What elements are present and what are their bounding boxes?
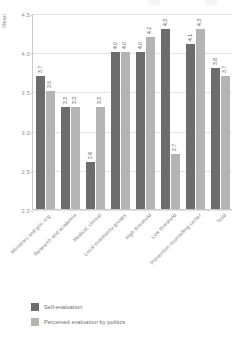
bar-group: 2.63.3 [83,14,108,209]
bar: 3.7 [36,76,45,209]
bar-group: 4.14.3 [183,14,208,209]
legend-swatch-icon-self-evaluation [31,303,39,311]
x-axis-labels: Ministries and gov. org.Research and aca… [32,212,232,294]
bar: 3.5 [46,91,55,209]
bar: 4.2 [146,37,155,209]
bar-value-label: 3.5 [46,81,52,88]
bar: 4.0 [121,52,130,209]
bar: 3.3 [96,107,105,209]
legend-label: Self-evaluation [44,304,83,310]
chart-legend: Self-evaluation Perceived evaluation by … [31,303,125,333]
bar-value-label: 3.8 [212,58,218,65]
bar-value-label: 4.0 [112,42,118,49]
bar-group: 3.33.3 [58,14,83,209]
y-axis-tick-label: 4.5 [22,12,30,18]
bar: 4.0 [136,52,145,209]
y-axis-title: Mean [1,14,7,28]
x-axis-category-label: Total [215,212,227,224]
bar-value-label: 2.7 [171,144,177,151]
bar-value-label: 4.1 [187,34,193,41]
gridline: 2.0 [33,210,232,211]
bar-value-label: 4.3 [196,18,202,25]
bar-value-label: 3.3 [71,97,77,104]
bar: 4.3 [196,29,205,209]
bar-value-label: 3.7 [221,65,227,72]
x-axis-category-label: High threshold [123,212,151,240]
bar: 2.7 [171,154,180,209]
y-axis-tick-label: 4.0 [22,51,30,57]
bar: 4.1 [186,44,195,209]
legend-swatch-icon-perceived-evaluation [31,318,39,326]
bar-group: 4.04.0 [108,14,133,209]
y-axis-tick-label: 2.5 [22,169,30,175]
bar-value-label: 4.0 [137,42,143,49]
bars-layer: 3.73.53.33.32.63.34.04.04.04.24.32.74.14… [33,14,232,209]
bar-value-label: 4.0 [121,42,127,49]
y-axis-tick-label: 2.0 [22,208,30,214]
bar-value-label: 4.2 [146,26,152,33]
legend-item-self-evaluation: Self-evaluation [31,303,125,311]
bar: 2.6 [86,162,95,209]
x-axis-category-label: Prevention counselling center [148,212,202,266]
cropped-top-artifact-left [148,0,160,5]
y-axis-tick-label: 3.0 [22,130,30,136]
bar-chart: Mean 2.02.53.03.54.04.5 3.73.53.33.32.63… [0,0,245,345]
bar-group: 4.04.2 [133,14,158,209]
bar-group: 3.73.5 [33,14,58,209]
bar: 3.3 [61,107,70,209]
plot-area: 2.02.53.03.54.04.5 3.73.53.33.32.63.34.0… [32,14,232,210]
bar-value-label: 4.3 [162,18,168,25]
bar-group: 3.83.7 [208,14,233,209]
x-axis-category-label: Research and academia [32,212,77,257]
bar-group: 4.32.7 [158,14,183,209]
bar-value-label: 2.6 [87,152,93,159]
x-axis-category-label: Ministries and gov. org. [9,212,52,255]
bar: 4.0 [111,52,120,209]
bar: 3.7 [221,76,230,209]
bar-value-label: 3.3 [96,97,102,104]
bar: 3.8 [211,68,220,209]
bar: 3.3 [71,107,80,209]
bar-value-label: 3.7 [37,65,43,72]
cropped-top-artifact-right [205,0,217,5]
legend-item-perceived-evaluation: Perceived evaluation by politics [31,318,125,326]
legend-label: Perceived evaluation by politics [44,319,125,325]
bar-value-label: 3.3 [62,97,68,104]
x-axis-category-label: Local community groups [82,212,127,257]
y-axis-tick-label: 3.5 [22,90,30,96]
bar: 4.3 [161,29,170,209]
